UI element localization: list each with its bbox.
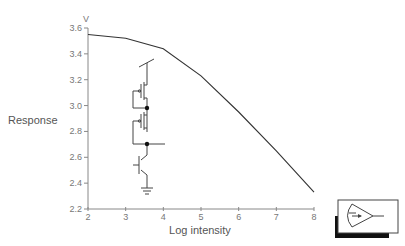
y-tick-label: 3.4 [69,49,82,59]
y-tick-label: 2.8 [69,126,82,136]
y-tick-label: 3.6 [69,23,82,33]
y-unit-label: V [83,14,89,24]
x-tick-label: 5 [198,212,203,222]
photoreceptor-icon [335,200,398,238]
x-tick-label: 8 [311,212,316,222]
circuit-schematic-icon [133,59,165,194]
x-tick-label: 2 [85,212,90,222]
y-tick-label: 3.0 [69,101,82,111]
y-tick-label: 2.4 [69,178,82,188]
x-tick-label: 3 [123,212,128,222]
y-ticks: 2.22.42.62.83.03.23.43.6 [69,23,88,214]
y-tick-label: 2.6 [69,152,82,162]
y-axis-label: Response [8,114,58,126]
chart: 2.22.42.62.83.03.23.43.6 2345678 V Respo… [0,0,405,246]
x-tick-label: 4 [161,212,166,222]
x-tick-label: 7 [274,212,279,222]
y-tick-label: 2.2 [69,204,82,214]
x-tick-label: 6 [236,212,241,222]
response-curve [88,35,314,193]
y-tick-label: 3.2 [69,75,82,85]
x-axis-label: Log intensity [169,224,231,236]
